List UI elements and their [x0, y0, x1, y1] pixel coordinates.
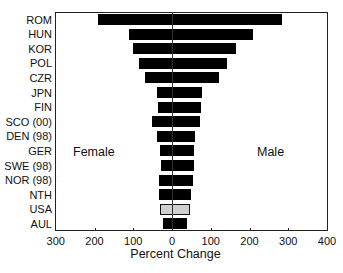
- bar-jpn: [157, 87, 202, 98]
- male-annotation: Male: [257, 145, 284, 159]
- x-tick-label: 300: [273, 235, 303, 247]
- bar-kor: [133, 43, 236, 54]
- bar-rom: [98, 14, 282, 25]
- x-tick-label: 100: [196, 235, 226, 247]
- bar-nth: [159, 189, 191, 200]
- x-tick-label: 100: [118, 235, 148, 247]
- x-tick: [250, 228, 251, 231]
- bar-usa: [160, 204, 190, 215]
- category-label: NTH: [29, 189, 52, 201]
- category-label: AUL: [31, 218, 52, 230]
- category-label: SCO (00): [6, 116, 52, 128]
- bar-ger: [160, 145, 194, 156]
- category-label: NOR (98): [5, 174, 52, 186]
- x-tick: [95, 228, 96, 231]
- category-label: JPN: [31, 87, 52, 99]
- x-tick: [172, 228, 173, 231]
- female-annotation: Female: [73, 145, 115, 159]
- x-tick-label: 400: [312, 235, 342, 247]
- category-label: KOR: [28, 43, 52, 55]
- x-tick: [211, 228, 212, 231]
- category-label: USA: [29, 203, 52, 215]
- x-tick: [288, 228, 289, 231]
- bar-aul: [163, 218, 187, 229]
- bar-sco-00: [152, 116, 200, 127]
- x-tick: [133, 228, 134, 231]
- category-label: DEN (98): [6, 130, 52, 142]
- bar-hun: [129, 29, 253, 40]
- category-label: HUN: [28, 28, 52, 40]
- bar-fin: [158, 102, 201, 113]
- bar-nor-98: [159, 175, 193, 186]
- category-label: CZR: [29, 72, 52, 84]
- zero-line: [172, 12, 173, 231]
- x-tick-label: 0: [157, 235, 187, 247]
- bar-pol: [139, 58, 227, 69]
- x-tick-label: 200: [235, 235, 265, 247]
- bar-czr: [145, 72, 219, 83]
- category-label: SWE (98): [4, 160, 52, 172]
- category-label: GER: [28, 145, 52, 157]
- butterfly-bar-chart: ROMHUNKORPOLCZRJPNFINSCO (00)DEN (98)GER…: [0, 0, 343, 273]
- x-tick-label: 300: [41, 235, 71, 247]
- x-axis-label: Percent Change: [0, 247, 343, 261]
- x-tick-label: 200: [80, 235, 110, 247]
- bar-swe-98: [161, 160, 194, 171]
- bar-den-98: [157, 131, 195, 142]
- category-label: ROM: [26, 14, 52, 26]
- category-label: FIN: [34, 101, 52, 113]
- category-label: POL: [30, 57, 52, 69]
